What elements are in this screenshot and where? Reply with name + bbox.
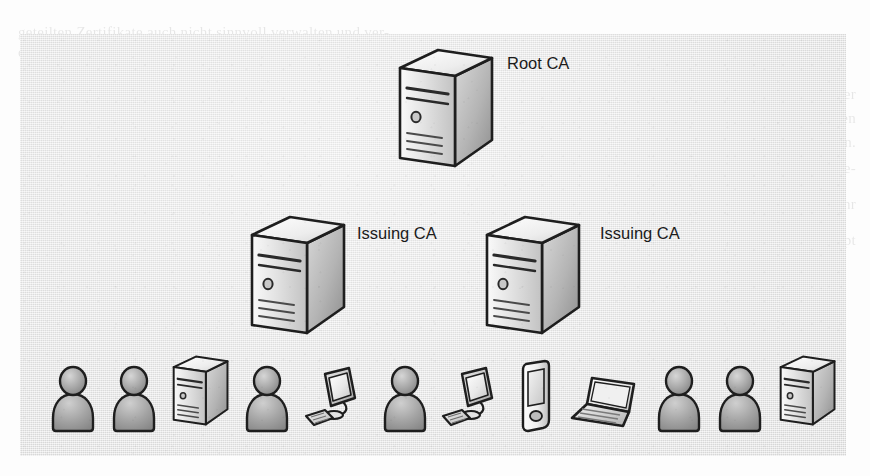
laptop-icon bbox=[566, 372, 644, 434]
server-icon bbox=[169, 354, 231, 434]
node-client-6[interactable] bbox=[380, 364, 430, 434]
pki-hierarchy-diagram: Root CA Issuing CA bbox=[20, 34, 846, 456]
client-tier-row bbox=[48, 350, 838, 434]
node-client-2[interactable] bbox=[109, 364, 159, 434]
user-icon bbox=[109, 364, 159, 434]
node-client-7[interactable] bbox=[440, 362, 506, 434]
user-icon bbox=[242, 364, 292, 434]
scanned-book-page: geteilten Zertifikate auch nicht sinnvol… bbox=[0, 0, 870, 476]
desktop-computer-icon bbox=[303, 362, 369, 434]
user-icon bbox=[654, 364, 704, 434]
node-client-12[interactable] bbox=[776, 354, 838, 434]
node-client-9[interactable] bbox=[566, 372, 644, 434]
server-icon bbox=[479, 215, 585, 347]
node-client-10[interactable] bbox=[654, 364, 704, 434]
user-icon bbox=[380, 364, 430, 434]
node-client-1[interactable] bbox=[48, 364, 98, 434]
user-icon bbox=[48, 364, 98, 434]
user-icon bbox=[715, 364, 765, 434]
label-issuing-ca-left: Issuing CA bbox=[357, 224, 437, 243]
server-icon bbox=[776, 354, 838, 434]
server-icon bbox=[392, 48, 498, 180]
node-client-8[interactable] bbox=[517, 358, 555, 434]
node-client-5[interactable] bbox=[303, 362, 369, 434]
mobile-phone-icon bbox=[517, 358, 555, 434]
label-root-ca: Root CA bbox=[507, 54, 569, 73]
server-icon bbox=[244, 215, 350, 347]
node-issuing-ca-2[interactable] bbox=[479, 215, 585, 347]
node-client-4[interactable] bbox=[242, 364, 292, 434]
node-client-11[interactable] bbox=[715, 364, 765, 434]
node-root-ca[interactable] bbox=[392, 48, 498, 180]
desktop-computer-icon bbox=[440, 362, 506, 434]
node-client-3[interactable] bbox=[169, 354, 231, 434]
node-issuing-ca-1[interactable] bbox=[244, 215, 350, 347]
label-issuing-ca-right: Issuing CA bbox=[600, 224, 680, 243]
